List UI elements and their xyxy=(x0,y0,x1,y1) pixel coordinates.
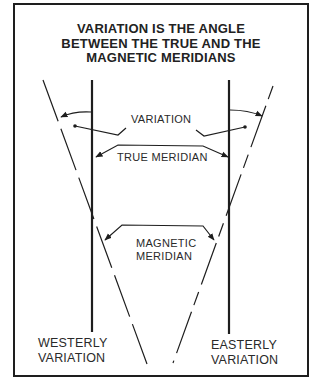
east-variation-arc-arrow xyxy=(230,110,262,116)
easterly-line-1: EASTERLY xyxy=(211,338,278,353)
easterly-line-2: VARIATION xyxy=(211,353,278,368)
west-variation-arc-arrow xyxy=(61,112,91,117)
magnetic-meridian-line-2: MERIDIAN xyxy=(136,250,196,263)
title-line-1: VARIATION IS THE ANGLE xyxy=(13,22,309,37)
title-line-2: BETWEEN THE TRUE AND THE xyxy=(13,37,309,52)
easterly-variation-label: EASTERLY VARIATION xyxy=(211,338,278,367)
diagram-title: VARIATION IS THE ANGLE BETWEEN THE TRUE … xyxy=(13,22,309,66)
true-meridian-label: TRUE MERIDIAN xyxy=(117,151,208,164)
east-magnetic-meridian-line xyxy=(173,86,273,363)
westerly-variation-label: WESTERLY VARIATION xyxy=(38,336,107,365)
westerly-line-1: WESTERLY xyxy=(38,336,107,351)
west-variation-leader xyxy=(75,126,126,135)
magnetic-meridian-line-1: MAGNETIC xyxy=(136,237,196,250)
east-variation-leader xyxy=(196,127,245,136)
variation-label: VARIATION xyxy=(131,113,191,126)
title-line-3: MAGNETIC MERIDIANS xyxy=(13,51,309,66)
magnetic-meridian-label: MAGNETIC MERIDIAN xyxy=(136,237,196,263)
westerly-line-2: VARIATION xyxy=(38,351,107,366)
